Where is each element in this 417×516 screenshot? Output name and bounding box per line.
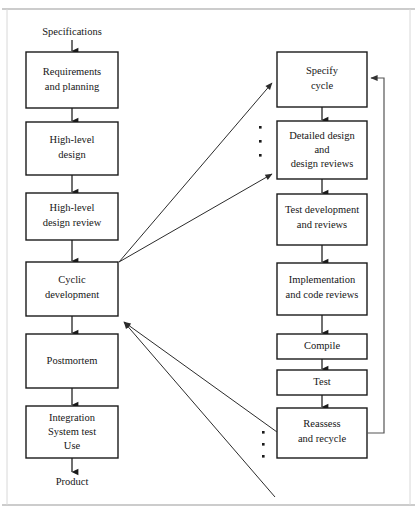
box-integration-line-3: Use [64, 440, 81, 451]
box-high-level-design-review-line-2: design review [43, 217, 102, 228]
ellipsis-lower-dot-1 [262, 431, 265, 434]
box-test[interactable]: Test [277, 370, 367, 395]
box-specify-cycle-line-2: cycle [311, 80, 333, 91]
ellipsis-lower [262, 431, 265, 458]
box-implementation-line-2: and code reviews [286, 289, 359, 300]
feedback-loop-path [367, 78, 384, 433]
return-arrows [124, 322, 277, 497]
box-requirements-and-planning-line-1: Requirements [43, 66, 101, 77]
specifications-label: Specifications [42, 26, 101, 37]
box-test-development-and-reviews[interactable]: Test development and reviews [277, 194, 367, 245]
arrow-reassess-to-cyclic-development [124, 322, 277, 432]
main-process-column: Specifications Requirements and planning… [26, 26, 118, 487]
box-compile[interactable]: Compile [277, 334, 367, 359]
box-integration-line-1: Integration [49, 412, 96, 423]
box-requirements-and-planning[interactable]: Requirements and planning [26, 52, 118, 108]
ellipsis-upper-dot-2 [259, 140, 262, 143]
arrow-cycle-continuation-to-cyclic-development [124, 322, 275, 497]
flowchart-svg: Specifications Requirements and planning… [0, 0, 417, 516]
ellipsis-lower-dot-3 [262, 455, 265, 458]
box-detailed-design-and-design-reviews[interactable]: Detailed design and design reviews [277, 121, 367, 179]
ellipsis-upper-dot-3 [259, 154, 262, 157]
box-postmortem-line-1: Postmortem [47, 355, 98, 366]
box-integration-system-test-use[interactable]: Integration System test Use [26, 406, 118, 458]
ellipsis-upper [259, 126, 262, 157]
box-high-level-design-review-line-1: High-level [50, 202, 95, 213]
box-high-level-design-review[interactable]: High-level design review [26, 193, 118, 240]
box-cyclic-development[interactable]: Cyclic development [26, 262, 118, 316]
box-cyclic-development-line-2: development [45, 289, 99, 300]
box-cyclic-development-line-1: Cyclic [58, 274, 86, 285]
feedback-loop-reassess-to-specify-cycle [367, 78, 384, 433]
box-specify-cycle[interactable]: Specify cycle [277, 52, 367, 107]
box-compile-line-1: Compile [304, 340, 341, 351]
box-requirements-and-planning-line-2: and planning [45, 81, 100, 92]
box-high-level-design[interactable]: High-level design [26, 122, 118, 175]
box-detailed-design-line-3: design reviews [291, 158, 354, 169]
box-high-level-design-line-1: High-level [50, 134, 95, 145]
arrow-cyclic-development-to-specify-cycle [119, 83, 272, 262]
box-test-development-line-2: and reviews [297, 219, 347, 230]
box-test-development-line-1: Test development [285, 204, 359, 215]
box-implementation-and-code-reviews[interactable]: Implementation and code reviews [277, 263, 367, 315]
box-reassess-and-recycle[interactable]: Reassess and recycle [277, 408, 367, 458]
box-detailed-design-line-1: Detailed design [289, 130, 355, 141]
box-implementation-line-1: Implementation [289, 274, 356, 285]
box-reassess-line-2: and recycle [298, 433, 346, 444]
box-requirements-and-planning-rect[interactable] [26, 52, 118, 108]
box-integration-line-2: System test [48, 426, 96, 437]
box-test-line-1: Test [313, 376, 330, 387]
box-specify-cycle-line-1: Specify [306, 65, 339, 76]
arrow-cyclic-development-to-detailed-design [119, 174, 272, 262]
box-reassess-line-1: Reassess [303, 418, 340, 429]
product-label: Product [56, 476, 89, 487]
cycle-detail-column: Specify cycle Detailed design and design… [277, 52, 367, 458]
box-postmortem[interactable]: Postmortem [26, 334, 118, 388]
ellipsis-lower-dot-2 [262, 443, 265, 446]
expansion-arrows [119, 83, 272, 262]
box-high-level-design-line-2: design [58, 149, 86, 160]
flowchart-figure: Specifications Requirements and planning… [0, 0, 417, 516]
ellipsis-upper-dot-1 [259, 126, 262, 129]
box-detailed-design-line-2: and [314, 144, 330, 155]
